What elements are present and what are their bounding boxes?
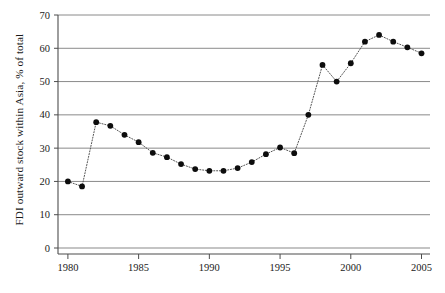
chart-figure: FDI outward stock within Asia, % of tota…: [0, 0, 445, 293]
svg-text:10: 10: [40, 209, 51, 220]
line-chart-plot: 010203040506070 198019851990199520002005: [0, 0, 445, 293]
y-tick-labels: 010203040506070: [40, 10, 51, 254]
svg-text:20: 20: [40, 176, 51, 187]
svg-text:50: 50: [40, 76, 51, 87]
svg-text:1985: 1985: [128, 262, 149, 273]
svg-text:2005: 2005: [411, 262, 432, 273]
x-axis: [58, 254, 430, 259]
data-series-line: [68, 35, 422, 186]
x-tick-labels: 198019851990199520002005: [57, 262, 432, 273]
svg-text:70: 70: [40, 10, 51, 21]
svg-text:30: 30: [40, 143, 51, 154]
y-axis: [54, 15, 58, 254]
svg-text:1980: 1980: [57, 262, 78, 273]
svg-text:0: 0: [45, 243, 50, 254]
cropped-caption-strip: [0, 284, 445, 293]
svg-text:2000: 2000: [340, 262, 361, 273]
grid-lines: [58, 15, 430, 248]
data-point-markers: [65, 32, 424, 189]
svg-text:60: 60: [40, 43, 51, 54]
svg-text:40: 40: [40, 109, 51, 120]
svg-text:1990: 1990: [199, 262, 220, 273]
svg-text:1995: 1995: [270, 262, 291, 273]
